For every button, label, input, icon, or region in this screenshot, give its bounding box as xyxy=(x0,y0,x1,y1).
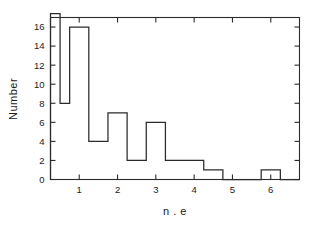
y-tick-label: 2 xyxy=(39,155,44,166)
x-tick-label: 3 xyxy=(153,184,158,195)
x-axis-title: n . e xyxy=(163,205,187,217)
x-tick-label: 2 xyxy=(115,184,120,195)
y-tick-label: 4 xyxy=(39,136,44,147)
y-axis-title: Number xyxy=(7,78,19,120)
y-tick-label: 0 xyxy=(39,174,44,185)
chart-canvas: 0246810121416 123456 n . e Number xyxy=(0,0,315,227)
y-tick-label: 14 xyxy=(34,40,45,51)
y-tick-label: 16 xyxy=(34,21,45,32)
y-tick-label: 6 xyxy=(39,117,44,128)
x-tick-label: 6 xyxy=(268,184,273,195)
x-tick-label: 1 xyxy=(77,184,82,195)
y-tick-label: 12 xyxy=(34,60,45,71)
y-tick-label: 10 xyxy=(34,79,45,90)
histogram-figure: 0246810121416 123456 n . e Number xyxy=(0,0,315,227)
y-tick-label: 8 xyxy=(39,98,44,109)
x-tick-label: 4 xyxy=(192,184,197,195)
x-tick-label: 5 xyxy=(230,184,235,195)
